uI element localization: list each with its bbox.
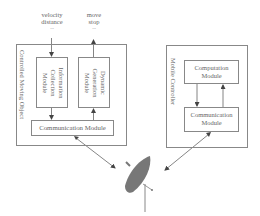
velocity-text: velocity	[36, 11, 68, 18]
distance-text: distance	[36, 18, 68, 25]
communication-module-right-label: Communication Module	[184, 111, 239, 126]
ellipsis-text: ...	[80, 25, 108, 31]
mobile-controller-title: Mobile Controller	[170, 58, 177, 105]
communication-line2: Module	[184, 119, 239, 127]
output-move-label: move stop ...	[80, 11, 108, 31]
satellite-dish-icon	[125, 156, 153, 212]
input-velocity-label: velocity distance ...	[36, 11, 68, 31]
communication-line1: Communication	[184, 111, 239, 119]
controlled-object-title: Controlled Moving Object	[19, 50, 26, 119]
computation-line1: Computation	[184, 64, 239, 72]
communication-module-left-label: Communication Module	[31, 124, 114, 132]
stop-text: stop	[80, 18, 108, 25]
computation-line2: Module	[184, 72, 239, 80]
computation-module-label: Computation Module	[184, 64, 239, 79]
dynamic-generation-label: Dynamic Generation Module	[83, 61, 107, 105]
information-collection-label: Information Collection Module	[41, 61, 65, 105]
ellipsis-text: ...	[36, 25, 68, 31]
move-text: move	[80, 11, 108, 18]
